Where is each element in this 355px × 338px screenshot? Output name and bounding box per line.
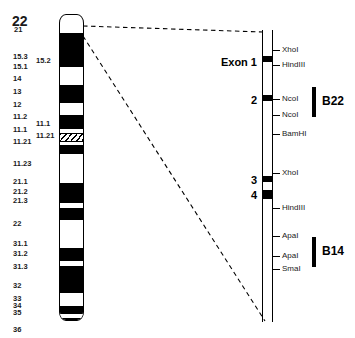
band-label: 31.1 bbox=[13, 240, 28, 248]
chromosome-band bbox=[60, 33, 83, 67]
restriction-site-label: NcoI bbox=[282, 95, 298, 103]
band-label: 36 bbox=[13, 326, 21, 334]
gene-restriction-map: XhoIHindIIINcoINcoIBamHIXhoIHindIIIApaIA… bbox=[262, 30, 273, 322]
restriction-site-tick bbox=[273, 256, 280, 257]
restriction-site-tick bbox=[273, 208, 280, 209]
probe-bar bbox=[312, 87, 316, 117]
band-label: 32 bbox=[13, 282, 21, 290]
chromosome-band bbox=[60, 266, 83, 293]
exon-block bbox=[262, 56, 273, 62]
band-label: 21.1 bbox=[13, 178, 28, 186]
band-label: 11.1 bbox=[36, 120, 50, 128]
band-label: 31.2 bbox=[13, 250, 28, 258]
chromosome-band bbox=[60, 67, 83, 74]
chromosome-band bbox=[60, 157, 83, 183]
band-label: 11.1 bbox=[13, 126, 27, 134]
exon-label: 4 bbox=[251, 190, 257, 201]
band-label: 31.3 bbox=[13, 263, 28, 271]
chromosome-band bbox=[60, 293, 83, 306]
chromosome-band bbox=[60, 248, 83, 261]
exon-label: Exon 1 bbox=[221, 57, 257, 68]
restriction-site-label: HindIII bbox=[282, 61, 305, 69]
chromosome-gene-map-figure: 22 2115.315.215.114131211.211.111.111.21… bbox=[0, 0, 355, 338]
restriction-site-label: XhoI bbox=[282, 169, 298, 177]
restriction-site-tick bbox=[273, 134, 280, 135]
band-label: 12 bbox=[13, 101, 21, 109]
band-label: 13 bbox=[13, 88, 21, 96]
probe-bar bbox=[312, 237, 316, 267]
restriction-site-label: NcoI bbox=[282, 111, 298, 119]
chromosome-band bbox=[60, 208, 83, 220]
restriction-site-label: XhoI bbox=[282, 46, 298, 54]
restriction-site-label: ApaI bbox=[282, 232, 298, 240]
chromosome-band bbox=[60, 85, 83, 103]
restriction-site-tick bbox=[273, 269, 280, 270]
restriction-site-tick bbox=[273, 99, 280, 100]
band-label: 11.23 bbox=[13, 160, 31, 168]
band-label: 35 bbox=[13, 309, 21, 317]
band-label: 15.3 bbox=[13, 53, 28, 61]
exon-label-group: Exon 1234 bbox=[185, 0, 257, 338]
chromosome-band bbox=[60, 103, 83, 115]
exon-label: 2 bbox=[251, 95, 257, 106]
restriction-site-tick bbox=[273, 236, 280, 237]
band-label: 14 bbox=[13, 75, 21, 83]
connector-lines bbox=[0, 0, 355, 338]
restriction-site-label: HindIII bbox=[282, 204, 305, 212]
band-label: 11.21 bbox=[13, 138, 31, 146]
restriction-site-tick bbox=[273, 173, 280, 174]
band-label: 21 bbox=[14, 26, 22, 34]
chromosome-band bbox=[60, 145, 83, 154]
restriction-site-tick bbox=[273, 115, 280, 116]
chromosome-band bbox=[60, 183, 83, 203]
band-label: 21.3 bbox=[13, 197, 28, 205]
restriction-site-label: BamHI bbox=[282, 130, 306, 138]
probe-label: B14 bbox=[322, 245, 344, 257]
exon-block bbox=[262, 190, 273, 199]
chromosome-band bbox=[60, 220, 83, 248]
chromosome-band bbox=[60, 318, 83, 321]
probe-label: B22 bbox=[322, 95, 344, 107]
restriction-site-tick bbox=[273, 50, 280, 51]
restriction-site-label: ApaI bbox=[282, 252, 298, 260]
exon-label: 3 bbox=[251, 175, 257, 186]
band-label: 11.2 bbox=[13, 113, 27, 121]
exon-block bbox=[262, 95, 273, 101]
band-label: 22 bbox=[13, 220, 21, 228]
band-label: 15.1 bbox=[13, 63, 28, 71]
band-label: 21.2 bbox=[13, 188, 28, 196]
chromosome-band bbox=[60, 133, 83, 142]
restriction-site-tick bbox=[273, 65, 280, 66]
chromosome-band bbox=[60, 306, 83, 314]
restriction-site-label: SmaI bbox=[282, 265, 301, 273]
band-label: 11.21 bbox=[36, 132, 54, 140]
chromosome-band bbox=[60, 115, 83, 129]
chromosome-ideogram bbox=[59, 14, 84, 321]
band-label: 15.2 bbox=[36, 57, 51, 65]
exon-block bbox=[262, 176, 273, 182]
